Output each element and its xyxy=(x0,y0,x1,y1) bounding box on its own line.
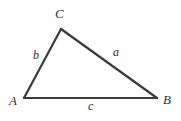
side-label-b: b xyxy=(33,49,39,61)
triangle-figure: C A B b a c xyxy=(0,0,181,121)
triangle-side-b-line xyxy=(24,29,61,98)
side-label-a: a xyxy=(113,46,119,58)
vertex-label-b: B xyxy=(163,93,171,106)
vertex-label-c: C xyxy=(55,7,64,20)
triangle-side-a-line xyxy=(61,29,157,98)
vertex-label-a: A xyxy=(9,94,17,107)
side-label-c: c xyxy=(88,100,93,112)
